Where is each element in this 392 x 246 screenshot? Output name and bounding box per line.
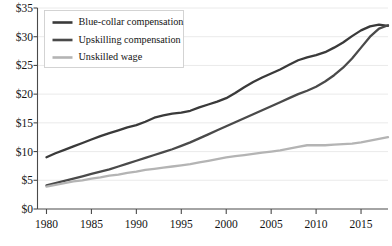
legend-label-1: Upskilling compensation xyxy=(79,34,181,45)
y-tick-label: $15 xyxy=(16,117,34,129)
y-axis-tick-labels: $0$5$10$15$20$25$30$35 xyxy=(16,2,34,215)
line-chart: $0$5$10$15$20$25$30$35 19801985199019952… xyxy=(0,0,392,246)
y-tick-label: $0 xyxy=(22,203,34,215)
x-tick-label: 1995 xyxy=(170,218,193,230)
legend-label-2: Unskilled wage xyxy=(79,51,143,62)
y-tick-label: $10 xyxy=(16,146,34,158)
chart-legend: Blue-collar compensationUpskilling compe… xyxy=(45,11,184,68)
y-tick-label: $25 xyxy=(16,59,34,71)
y-tick-label: $5 xyxy=(22,174,34,186)
x-tick-label: 2005 xyxy=(260,218,283,230)
x-tick-label: 1990 xyxy=(125,218,148,230)
y-tick-label: $35 xyxy=(16,2,34,14)
legend-label-0: Blue-collar compensation xyxy=(79,16,184,27)
series-line-2 xyxy=(46,137,388,186)
y-tick-label: $30 xyxy=(16,31,34,43)
x-axis-tick-labels: 19801985199019952000200520102015 xyxy=(35,218,373,230)
y-tick-label: $20 xyxy=(16,88,34,100)
x-tick-label: 2015 xyxy=(350,218,373,230)
chart-svg: $0$5$10$15$20$25$30$35 19801985199019952… xyxy=(0,0,392,246)
x-tick-label: 2000 xyxy=(215,218,238,230)
x-tick-label: 1980 xyxy=(35,218,58,230)
x-tick-label: 1985 xyxy=(80,218,103,230)
x-tick-label: 2010 xyxy=(305,218,328,230)
